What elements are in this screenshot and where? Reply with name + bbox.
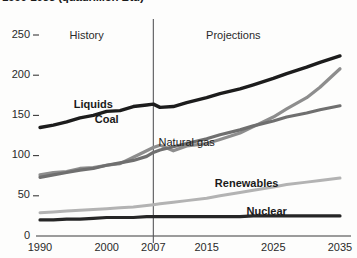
y-tick-label-150: 150 (0, 108, 30, 120)
x-tick-label-1990: 1990 (17, 241, 63, 253)
x-tick-label-2015: 2015 (184, 241, 230, 253)
x-tick-label-2035: 2035 (317, 241, 357, 253)
era-label-projections: Projections (206, 29, 260, 41)
y-tick-label-250: 250 (0, 28, 30, 40)
series-label-nuclear: Nuclear (246, 205, 286, 217)
x-tick-label-2000: 2000 (84, 241, 130, 253)
series-line-coal (40, 69, 340, 175)
series-line-renewables (40, 178, 340, 213)
series-label-renewables: Renewables (215, 177, 279, 189)
x-tick-label-2007: 2007 (130, 241, 176, 253)
x-tick-label-2025: 2025 (250, 241, 296, 253)
series-label-natural-gas: Natural gas (159, 136, 215, 148)
y-tick-label-100: 100 (0, 148, 30, 160)
y-tick-label-200: 200 (0, 68, 30, 80)
series-label-coal: Coal (95, 113, 119, 125)
y-tick-label-50: 50 (0, 188, 30, 200)
y-tick-label-0: 0 (0, 229, 30, 241)
series-line-nuclear (40, 216, 340, 220)
era-label-history: History (70, 29, 104, 41)
series-label-liquids: Liquids (74, 98, 113, 110)
